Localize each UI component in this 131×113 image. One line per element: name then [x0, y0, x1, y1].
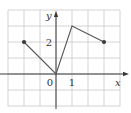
x-tick-label: 0 — [47, 77, 53, 88]
x-axis-arrow — [123, 72, 129, 76]
x-axis-label: x — [115, 77, 121, 88]
endpoint-dot — [22, 40, 26, 44]
endpoint-dot — [102, 40, 106, 44]
x-tick-label: 1 — [69, 77, 75, 88]
y-axis-arrow — [54, 11, 58, 17]
grid — [8, 10, 120, 106]
y-axis-label: y — [45, 10, 52, 21]
graph: x y 012 — [0, 0, 131, 113]
function-curve — [24, 26, 104, 74]
tick-labels: 012 — [46, 37, 75, 88]
y-tick-label: 2 — [46, 37, 52, 48]
